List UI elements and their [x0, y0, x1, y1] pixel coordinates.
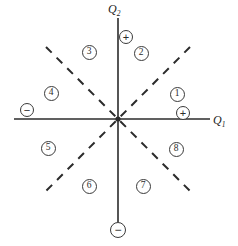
region-marker-5: 5: [41, 141, 56, 156]
region-marker-8: 8: [169, 142, 184, 157]
region-marker-1: 1: [170, 87, 185, 102]
axis-label-base: Q: [108, 2, 117, 16]
minus-q2-axis-icon: −: [110, 222, 126, 238]
region-marker-6: 6: [82, 179, 97, 194]
region-marker-4: 4: [44, 86, 59, 101]
region-marker-3: 3: [82, 45, 97, 60]
plus-q2-axis-icon: +: [119, 30, 133, 44]
axis-label-q2: Q2: [108, 2, 120, 18]
axis-label-base: Q: [213, 113, 222, 127]
minus-q1-axis-icon: −: [20, 103, 34, 117]
region-marker-7: 7: [136, 179, 151, 194]
axis-label-subscript: 2: [117, 9, 121, 18]
plus-q1-axis-icon: +: [176, 106, 190, 120]
axis-label-subscript: 1: [222, 120, 226, 129]
origin-point: [115, 116, 120, 121]
octant-diagram: Q1Q2 12345678 ++−−: [0, 0, 238, 246]
region-marker-2: 2: [134, 46, 149, 61]
axis-label-q1: Q1: [213, 113, 225, 129]
